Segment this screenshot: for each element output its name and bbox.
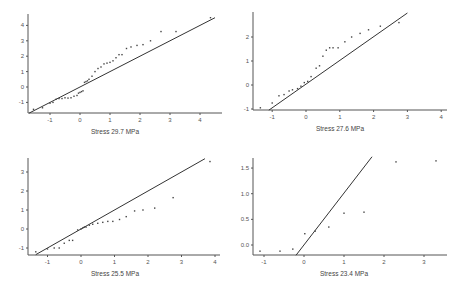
data-point (84, 226, 85, 227)
x-axis-label: Stress 27.6 MPa (316, 125, 364, 132)
x-tick-label: 3 (180, 259, 184, 265)
data-point (260, 107, 261, 108)
data-point (61, 98, 62, 99)
data-point (310, 76, 311, 77)
y-tick-label: 0 (21, 84, 25, 90)
y-tick-label: 1.5 (241, 165, 250, 171)
data-point (49, 102, 50, 103)
x-tick-label: 2 (138, 117, 142, 123)
data-point (67, 97, 68, 98)
data-point (82, 90, 83, 91)
y-tick-label: 2 (21, 53, 25, 59)
data-point (94, 71, 95, 72)
data-point (283, 94, 284, 95)
data-point (97, 68, 98, 69)
x-tick-label: 1 (113, 259, 117, 265)
data-point (59, 247, 60, 248)
data-point (288, 90, 289, 91)
x-tick-label: 3 (422, 259, 426, 265)
y-tick-label: 1 (246, 58, 250, 64)
data-point (79, 92, 80, 93)
y-tick-label: -1 (244, 106, 250, 112)
data-point (80, 228, 81, 229)
x-axis-label: Stress 23.4 MPa (320, 270, 368, 277)
data-point (304, 233, 305, 234)
y-tick-label: -1 (19, 245, 25, 251)
data-point (150, 40, 151, 41)
x-tick-label: 0 (78, 117, 82, 123)
y-tick-label: 3 (21, 169, 25, 175)
data-point (81, 91, 82, 92)
data-point (33, 109, 34, 110)
data-point (315, 230, 316, 231)
data-point (210, 17, 211, 18)
data-point (102, 222, 103, 223)
data-point (64, 243, 65, 244)
x-tick-label: 1 (342, 259, 346, 265)
data-point (87, 80, 88, 81)
x-axis-label: Stress 25.5 MPa (91, 270, 139, 277)
data-point (100, 66, 101, 67)
data-point (76, 95, 77, 96)
x-tick-label: 4 (440, 114, 444, 120)
data-point (130, 46, 131, 47)
data-point (85, 226, 86, 227)
reference-line (29, 18, 215, 113)
data-point (112, 60, 113, 61)
x-tick-label: 4 (213, 259, 217, 265)
y-tick-label: 0.0 (241, 242, 250, 248)
data-point (363, 211, 364, 212)
data-point (70, 97, 71, 98)
data-point (73, 96, 74, 97)
data-point (136, 45, 137, 46)
data-point (435, 160, 436, 161)
x-tick-label: 2 (372, 114, 376, 120)
data-point (343, 212, 344, 213)
data-point (55, 99, 56, 100)
data-point (89, 225, 90, 226)
data-point (47, 248, 48, 249)
x-tick-label: -1 (261, 259, 267, 265)
data-point (72, 240, 73, 241)
data-point (126, 48, 127, 49)
reference-line (36, 159, 205, 255)
data-point (84, 82, 85, 83)
data-point (77, 229, 78, 230)
x-tick-label: 2 (382, 259, 386, 265)
y-tick-label: 1.0 (241, 191, 250, 197)
data-point (344, 41, 345, 42)
data-point (118, 54, 119, 55)
panel-stress-25-5: -101234-10123Stress 25.5 MPa (19, 158, 220, 277)
data-point (126, 216, 127, 217)
x-tick-label: 0 (79, 259, 83, 265)
data-point (92, 224, 93, 225)
y-tick-label: 0 (21, 226, 25, 232)
data-point (172, 197, 173, 198)
data-point (42, 107, 43, 108)
data-point (109, 62, 110, 63)
y-tick-label: 4 (21, 22, 25, 28)
x-tick-label: 0 (304, 114, 308, 120)
data-point (154, 207, 155, 208)
x-tick-label: 1 (108, 117, 112, 123)
data-point (115, 57, 116, 58)
y-tick-label: 1 (21, 207, 25, 213)
data-point (106, 62, 107, 63)
data-point (97, 223, 98, 224)
data-point (35, 251, 36, 252)
panel-stress-27-6: -101234-1012Stress 27.6 MPa (244, 12, 447, 132)
x-tick-label: -1 (47, 117, 53, 123)
data-point (368, 29, 369, 30)
panel-stress-29-7: -101234-101234Stress 29.7 MPa (19, 14, 222, 135)
data-point (292, 89, 293, 90)
data-point (278, 95, 279, 96)
data-point (175, 31, 176, 32)
y-tick-label: 2 (21, 188, 25, 194)
data-point (326, 50, 327, 51)
data-point (259, 250, 260, 251)
data-point (64, 97, 65, 98)
y-tick-label: 1 (21, 69, 25, 75)
data-point (304, 82, 305, 83)
data-point (103, 63, 104, 64)
data-point (329, 47, 330, 48)
